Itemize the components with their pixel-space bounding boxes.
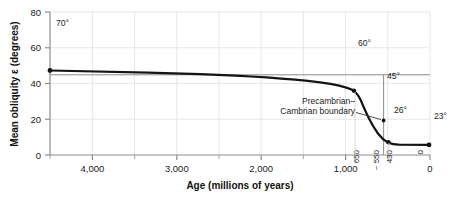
x-tick-label-4000: 4,000 [81,163,105,174]
x-tick-label-3000: 3,000 [165,163,189,174]
boundary-annotation-marker [382,119,386,123]
point-label-60: 60° [358,38,371,48]
x-tick-label-1000: 1,000 [334,163,358,174]
marker-26 [386,140,390,144]
vertical-tick-label-550: ~ 550 [372,149,381,170]
point-label-23: 23° [434,111,447,121]
vertical-tick-label-0: 0 [416,149,425,154]
point-label-45: 45° [387,71,400,81]
boundary-annotation-line2: Cambrian boundary [280,106,355,116]
point-label-70: 70° [56,18,69,28]
marker-end-23 [427,143,432,148]
y-tick-label-40: 40 [30,78,41,89]
marker-60 [352,89,356,93]
x-tick-label-0: 0 [427,163,432,174]
x-tick-label-2000: 2,000 [249,163,273,174]
point-label-26: 26° [394,105,407,115]
vertical-tick-label-650: 650 [352,149,361,163]
chart-background [0,0,459,201]
y-tick-label-60: 60 [30,42,41,53]
boundary-annotation-line1: Precambrian– [302,96,355,106]
y-tick-label-80: 80 [30,7,41,18]
y-tick-label-20: 20 [30,114,41,125]
chart-svg: 80 60 40 20 0 4,000 3,000 2,000 1,000 0 … [0,0,459,201]
obliquity-chart: 80 60 40 20 0 4,000 3,000 2,000 1,000 0 … [0,0,459,201]
y-tick-label-0: 0 [36,150,41,161]
vertical-tick-label-430: 430 [385,149,394,163]
marker-start-70 [48,68,53,73]
y-axis-title: Mean obliquity ε (degrees) [9,21,20,146]
x-axis-title: Age (millions of years) [186,180,293,191]
